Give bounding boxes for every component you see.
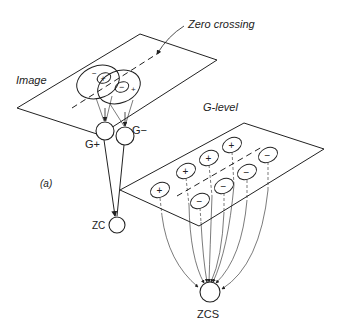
svg-text:−: − [197, 196, 203, 207]
zcs-node [200, 282, 220, 302]
receptive-field-on-center: + − [72, 59, 125, 105]
zero-crossing-label: Zero crossing [187, 18, 256, 30]
svg-text:−: − [265, 150, 271, 161]
g-plus-label: G+ [85, 138, 100, 150]
arrow-g-minus-to-zc [117, 145, 124, 216]
zc-node [109, 217, 125, 233]
zero-crossing-leader [157, 26, 184, 54]
zcs-label: ZCS [197, 308, 219, 320]
zero-crossing-line [72, 52, 160, 108]
svg-text:−: − [244, 167, 250, 178]
panel-a-label: (a) [40, 178, 52, 189]
arrow-g-plus-to-zc [104, 140, 115, 216]
image-label: Image [16, 74, 47, 86]
svg-text:+: + [206, 153, 212, 164]
rf-plus-surround-sign: − [92, 69, 97, 78]
g-level-plane [120, 123, 324, 226]
rf-minus-surround-sign: + [131, 85, 136, 94]
receptive-field-off-center: − + [93, 64, 146, 110]
zc-label: ZC [92, 220, 105, 231]
svg-text:+: + [229, 140, 235, 151]
rf-minus-center-sign: − [119, 82, 124, 92]
svg-text:+: + [157, 185, 163, 196]
diagram-canvas: Zero crossing Image + − − + G+ G− ZC (a)… [0, 0, 339, 321]
svg-text:−: − [221, 181, 227, 192]
g-minus-label: G− [132, 124, 147, 136]
g-level-label: G-level [203, 101, 238, 113]
svg-text:+: + [183, 166, 189, 177]
